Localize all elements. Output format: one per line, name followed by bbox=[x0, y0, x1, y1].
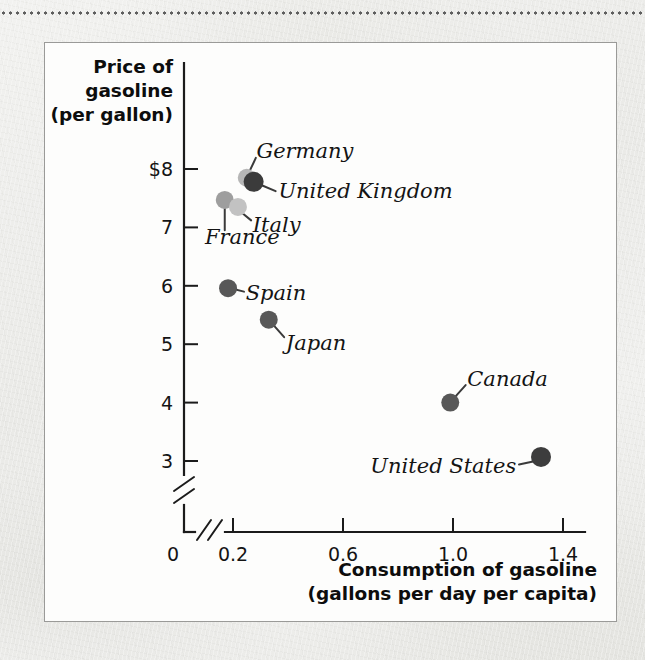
top-dotted-rule-divider bbox=[0, 11, 645, 15]
leader-line bbox=[455, 385, 466, 397]
y-axis-title-line2: gasoline bbox=[85, 80, 173, 101]
x-tick-label: 0 bbox=[167, 543, 179, 565]
y-tick-label: 7 bbox=[161, 216, 173, 238]
data-point-label: United States bbox=[370, 454, 516, 478]
y-tick-label: 3 bbox=[161, 450, 173, 472]
y-tick-label: $8 bbox=[149, 158, 173, 180]
data-point-marker[interactable] bbox=[531, 447, 551, 467]
x-axis-title-line2: (gallons per day per capita) bbox=[308, 583, 597, 604]
data-point-label: Italy bbox=[252, 213, 302, 237]
data-point-label: Japan bbox=[282, 331, 346, 355]
data-point-label: United Kingdom bbox=[278, 179, 452, 203]
data-point-label: Canada bbox=[467, 367, 548, 391]
y-axis-title-line1: Price of bbox=[93, 56, 174, 77]
data-point-marker[interactable] bbox=[441, 394, 459, 412]
data-point-label: Germany bbox=[256, 139, 354, 163]
x-tick-label: 0.2 bbox=[218, 543, 248, 565]
figure-card: $87654300.20.61.01.4 GermanyUnited Kingd… bbox=[44, 42, 617, 622]
tick-labels-group: $87654300.20.61.01.4 bbox=[149, 158, 578, 565]
data-point-marker[interactable] bbox=[229, 198, 247, 216]
data-point-marker[interactable] bbox=[244, 172, 264, 192]
x-axis-title: Consumption of gasoline (gallons per day… bbox=[308, 559, 597, 604]
data-point-marker[interactable] bbox=[260, 311, 278, 329]
y-axis-title-line3: (per gallon) bbox=[50, 104, 173, 125]
scatter-plot: $87654300.20.61.01.4 GermanyUnited Kingd… bbox=[45, 43, 616, 621]
y-axis-title: Price of gasoline (per gallon) bbox=[50, 56, 174, 125]
leader-line bbox=[250, 158, 256, 170]
page-root: $87654300.20.61.01.4 GermanyUnited Kingd… bbox=[0, 0, 645, 660]
data-point-label: Spain bbox=[246, 281, 307, 305]
chart-canvas: $87654300.20.61.01.4 GermanyUnited Kingd… bbox=[45, 43, 615, 620]
y-tick-label: 4 bbox=[161, 392, 173, 414]
data-point-marker[interactable] bbox=[219, 279, 237, 297]
y-tick-label: 6 bbox=[161, 275, 173, 297]
x-axis-title-line1: Consumption of gasoline bbox=[338, 559, 597, 580]
y-tick-label: 5 bbox=[161, 333, 173, 355]
